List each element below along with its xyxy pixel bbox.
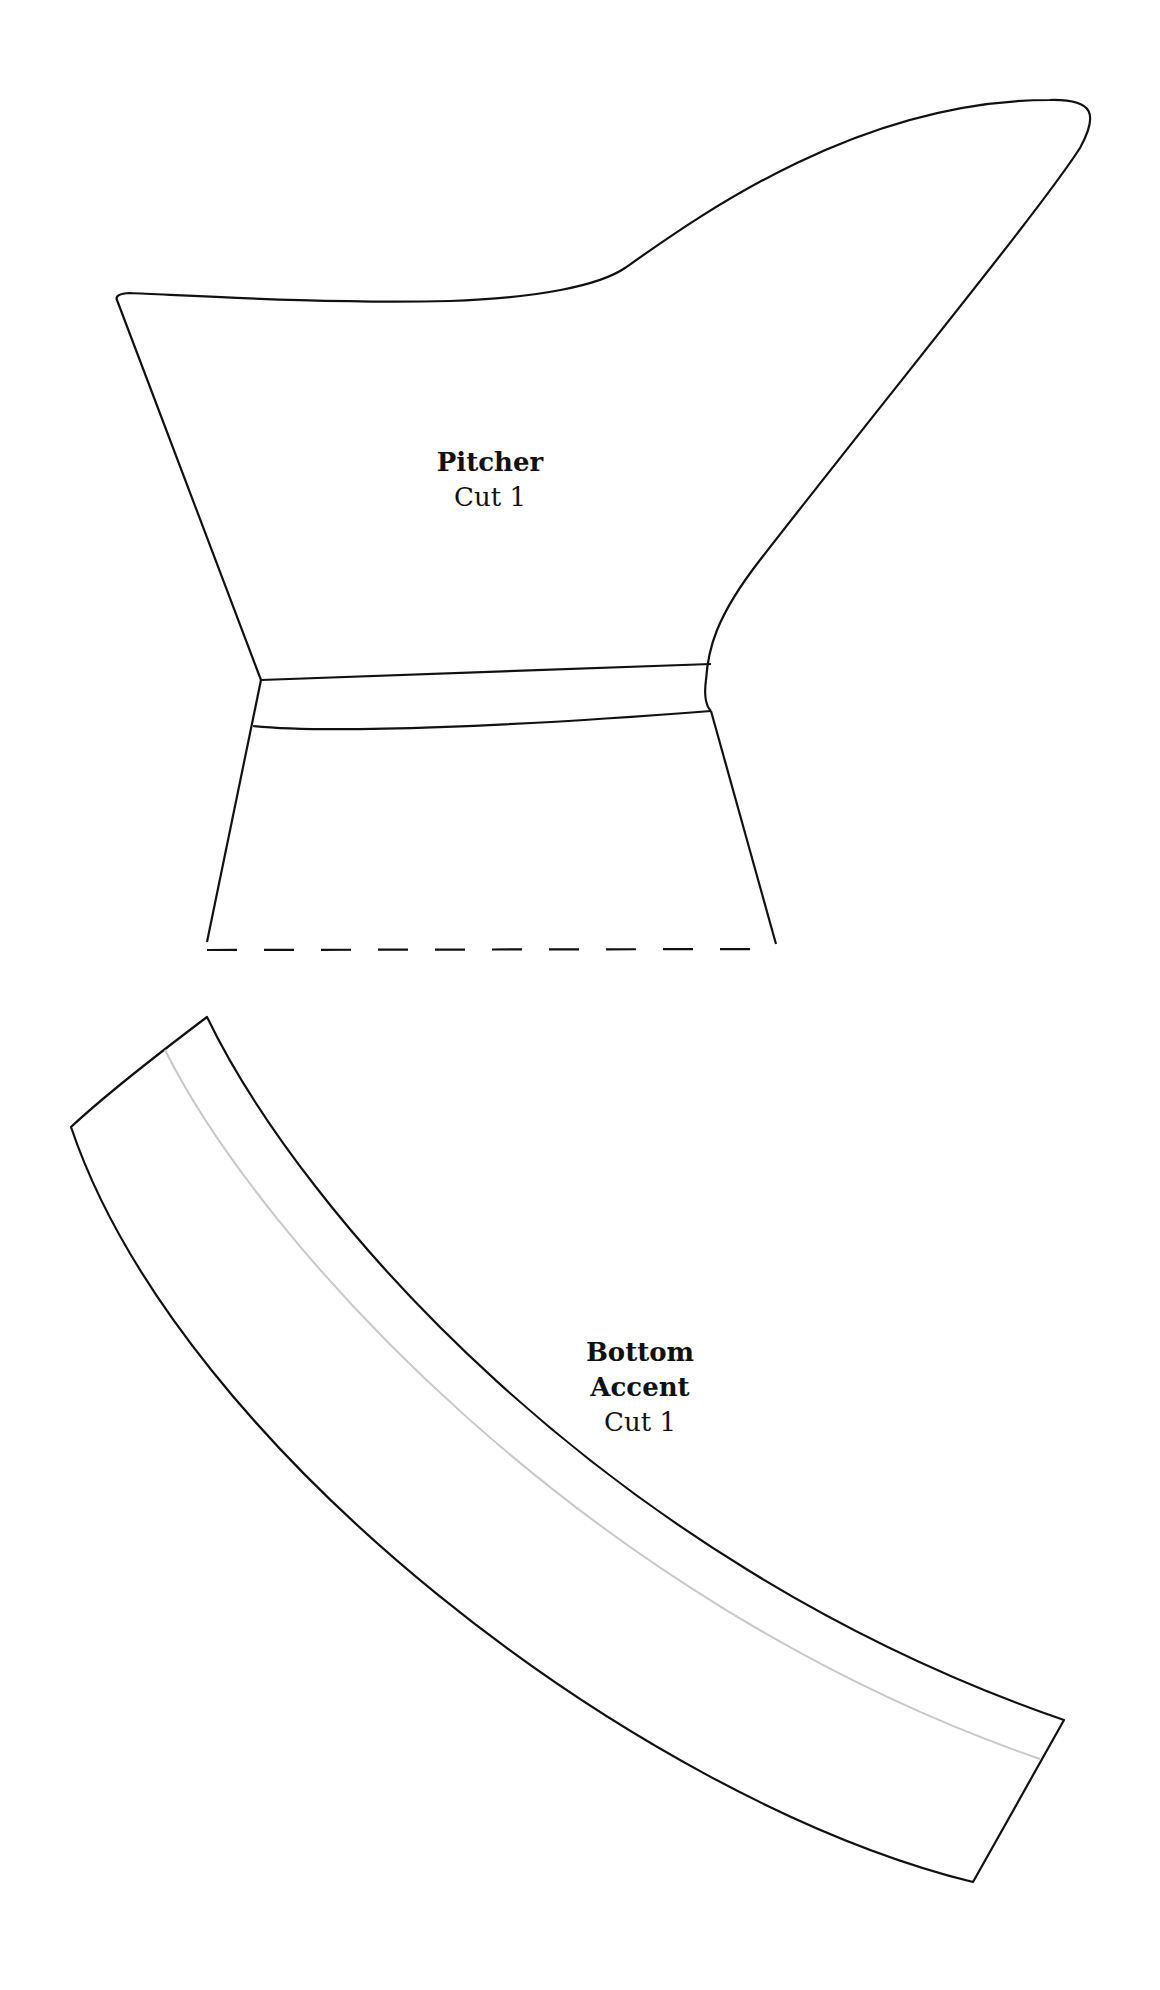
pattern-drawing	[0, 0, 1160, 1990]
pitcher-outline	[117, 100, 1091, 680]
bottom-accent-name-line-1: Bottom	[540, 1335, 740, 1370]
pattern-sheet: Pitcher Cut 1 Bottom Accent Cut 1	[0, 0, 1160, 1990]
pitcher-name: Pitcher	[390, 445, 590, 480]
bottom-accent-name-line-2: Accent	[540, 1370, 740, 1405]
pitcher-right-curve-lower	[705, 680, 711, 711]
pitcher-cut-count: Cut 1	[390, 480, 590, 515]
bottom-accent-outline	[71, 1017, 1064, 1882]
bottom-accent-cut-count: Cut 1	[540, 1405, 740, 1440]
pitcher-band-bottom-line	[253, 711, 711, 729]
pitcher-fold-line-dashed	[207, 949, 776, 950]
pitcher-label: Pitcher Cut 1	[390, 445, 590, 515]
bottom-accent-label: Bottom Accent Cut 1	[540, 1335, 740, 1440]
pitcher-lower-left-edge	[207, 680, 261, 942]
pitcher-band-top-line	[261, 664, 711, 680]
pitcher-lower-right-edge	[711, 711, 776, 944]
